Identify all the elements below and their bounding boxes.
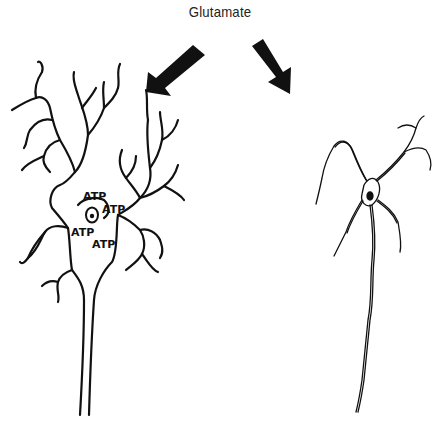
arrow-left-icon: [146, 45, 205, 96]
atp-label: ATP: [71, 226, 94, 239]
diagram-canvas: ATP ATP ATP ATP: [0, 0, 440, 433]
damaged-neuron: [316, 116, 431, 412]
atp-label: ATP: [83, 190, 106, 203]
atp-label: ATP: [102, 203, 125, 216]
nucleus-icon: [86, 208, 98, 223]
arrow-right-icon: [252, 39, 291, 94]
atp-label: ATP: [92, 238, 115, 251]
